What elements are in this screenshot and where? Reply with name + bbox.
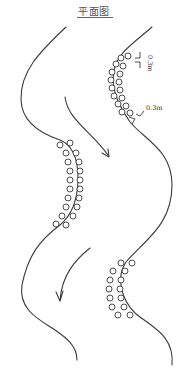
lower-flow-arrow <box>60 248 90 300</box>
dimension-mark-top <box>135 52 140 68</box>
upper-flow-arrowhead <box>102 149 109 157</box>
dimension-label-side: 0.3m <box>146 104 163 112</box>
right-bank <box>113 27 172 365</box>
lower-flow-arrowhead <box>56 291 63 301</box>
dimension-label-top: 0.3m <box>146 55 154 72</box>
upper-flow-arrow <box>65 97 108 155</box>
lower-right-pile-group <box>106 260 135 318</box>
middle-left-pile-group <box>53 140 83 228</box>
left-bank <box>21 27 78 360</box>
plan-view-diagram: 0.3m 0.3m <box>0 0 188 378</box>
